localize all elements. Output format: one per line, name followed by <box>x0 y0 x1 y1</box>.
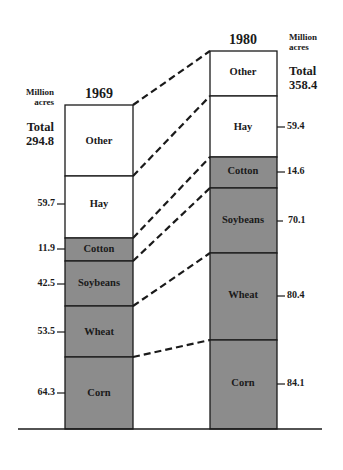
unit-label: acres <box>34 97 54 107</box>
segment-label: Cotton <box>228 165 259 176</box>
connector-other-hay <box>133 96 210 176</box>
value-label: 70.1 <box>288 214 306 225</box>
crop-acreage-chart: Other Hay Cotton Soybeans Wheat Corn 59.… <box>0 0 343 470</box>
connector-wheat-corn <box>133 340 210 357</box>
value-label: 59.7 <box>38 197 56 208</box>
value-label: 84.1 <box>287 377 305 388</box>
total-label: Total <box>27 120 55 134</box>
segment-label: Cotton <box>84 243 115 254</box>
value-label: 42.5 <box>38 277 56 288</box>
year-label-1980: 1980 <box>229 32 257 47</box>
segment-label: Other <box>86 135 113 146</box>
segment-label: Corn <box>87 387 110 398</box>
value-label: 80.4 <box>287 289 305 300</box>
segment-label: Other <box>230 66 257 77</box>
value-label: 53.5 <box>38 325 56 336</box>
connector-top <box>133 51 210 105</box>
value-label: 59.4 <box>287 120 305 131</box>
unit-label: acres <box>289 42 309 52</box>
total-value: 294.8 <box>26 134 54 148</box>
segment-label: Soybeans <box>222 214 264 225</box>
unit-label: Million <box>289 32 317 42</box>
connector-soybeans-wheat <box>133 253 210 306</box>
segment-label: Wheat <box>84 326 114 337</box>
total-value: 358.4 <box>289 78 318 92</box>
value-label: 11.9 <box>38 242 55 253</box>
segment-label: Hay <box>234 121 253 132</box>
bar-1980: Other Hay Cotton Soybeans Wheat Corn 59.… <box>210 32 318 429</box>
bar-1969: Other Hay Cotton Soybeans Wheat Corn 59.… <box>26 86 133 429</box>
unit-label: Million <box>26 87 54 97</box>
segment-label: Corn <box>231 377 254 388</box>
segment-label: Wheat <box>228 289 258 300</box>
dashed-connectors <box>133 51 210 357</box>
segment-label: Soybeans <box>78 277 120 288</box>
year-label-1969: 1969 <box>85 86 113 101</box>
total-label: Total <box>289 64 317 78</box>
value-label: 64.3 <box>38 386 56 397</box>
segment-label: Hay <box>90 198 109 209</box>
value-label: 14.6 <box>287 165 305 176</box>
